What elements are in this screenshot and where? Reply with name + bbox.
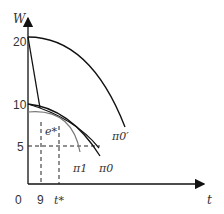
tick-tstar: t* xyxy=(54,194,64,207)
line-20 xyxy=(28,37,40,108)
point-e-star: e* xyxy=(45,125,58,138)
label-pi0: π0 xyxy=(98,162,113,175)
line-10 xyxy=(28,104,99,148)
tick-20: 20 xyxy=(13,35,27,49)
label-pi1: π1 xyxy=(72,162,87,175)
y-axis-label: W xyxy=(13,12,27,26)
curve-pi0-prime xyxy=(28,37,125,127)
tick-9: 9 xyxy=(37,193,44,207)
label-pi0-prime: π0′ xyxy=(111,130,129,143)
tick-5: 5 xyxy=(17,140,24,154)
origin-label: 0 xyxy=(15,193,22,207)
tick-10: 10 xyxy=(13,98,27,112)
x-axis-label: t xyxy=(207,193,212,207)
diagram: W t 0 20 10 5 9 t* e* π0′ π0 π1 xyxy=(0,0,224,214)
